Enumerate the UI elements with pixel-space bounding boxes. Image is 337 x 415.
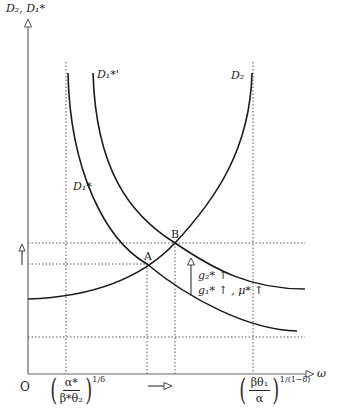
x-increase-arrow bbox=[148, 383, 172, 390]
curve-D1star-prime bbox=[93, 73, 305, 289]
fraction-denominator: β*θ₂ bbox=[60, 391, 83, 405]
fraction-denominator: α bbox=[256, 391, 263, 405]
x-tick-right-fraction: ( βθ₁ α ) 1/(1−δ) bbox=[237, 375, 310, 405]
left-paren: ( bbox=[50, 375, 57, 405]
y-increase-arrow bbox=[19, 244, 25, 265]
fraction-numerator: α* bbox=[63, 376, 80, 391]
fraction-exponent: 1/δ bbox=[92, 375, 105, 384]
fraction-exponent: 1/(1−δ) bbox=[280, 375, 311, 384]
shift-up-arrow bbox=[188, 258, 195, 296]
curve-label-D2: D₂ bbox=[231, 70, 244, 81]
point-label-B: B bbox=[171, 229, 179, 240]
annotation-g1-mu: g₁* ↑ , μ* ↑ bbox=[198, 285, 264, 296]
point-label-A: A bbox=[144, 251, 152, 262]
arrow-up-icon bbox=[19, 244, 25, 251]
y-axis-label: D₂, D₁* bbox=[6, 3, 45, 14]
left-paren: ( bbox=[239, 375, 246, 405]
curve-label-D1star: D₁* bbox=[73, 181, 92, 192]
right-paren: ) bbox=[85, 375, 92, 405]
x-tick-left-fraction: ( α* β*θ₂ ) 1/δ bbox=[48, 375, 105, 405]
x-axis-label: ω bbox=[317, 368, 326, 379]
fraction-stack: βθ₁ α bbox=[249, 376, 270, 405]
arrow-up-icon bbox=[188, 258, 195, 265]
right-paren: ) bbox=[272, 375, 279, 405]
fraction-stack: α* β*θ₂ bbox=[60, 376, 83, 405]
arrow-right-icon bbox=[164, 383, 172, 390]
annotation-g2: g₂* ↑ bbox=[198, 270, 228, 281]
curve-label-D1star-prime: D₁*' bbox=[97, 69, 119, 80]
origin-label: O bbox=[20, 381, 30, 393]
curve-D2 bbox=[28, 73, 252, 299]
y-axis bbox=[25, 19, 32, 374]
y-axis-arrowhead-icon bbox=[25, 19, 32, 27]
diagram-canvas bbox=[0, 0, 337, 415]
fraction-numerator: βθ₁ bbox=[249, 376, 270, 391]
